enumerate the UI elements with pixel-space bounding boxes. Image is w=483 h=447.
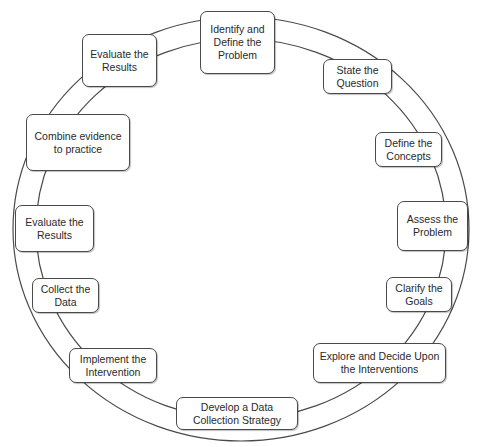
- node-implement-intervention: Implement the Intervention: [69, 348, 157, 383]
- node-explore-decide-interventions: Explore and Decide Upon the Intervention…: [313, 343, 446, 383]
- node-clarify-goals: Clarify the Goals: [386, 277, 452, 312]
- node-identify-define-problem: Identify and Define the Problem: [200, 11, 275, 74]
- node-collect-data: Collect the Data: [32, 278, 99, 313]
- node-define-concepts: Define the Concepts: [375, 132, 442, 167]
- node-evaluate-results-upper: Evaluate the Results: [82, 34, 157, 87]
- node-state-question: State the Question: [323, 59, 392, 94]
- node-develop-data-collection-strategy: Develop a Data Collection Strategy: [176, 397, 298, 430]
- node-combine-evidence-practice: Combine evidence to practice: [26, 114, 130, 171]
- node-evaluate-results-lower: Evaluate the Results: [15, 205, 94, 252]
- node-assess-problem: Assess the Problem: [397, 201, 468, 251]
